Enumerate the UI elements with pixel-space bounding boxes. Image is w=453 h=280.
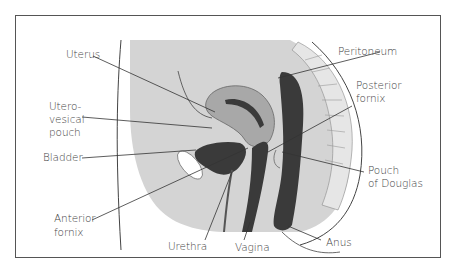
label-bladder: Bladder	[43, 151, 83, 164]
label-anterior-fornix-2: fornix	[54, 226, 83, 239]
label-uterovesical-pouch-1: Utero-	[49, 100, 81, 113]
label-uterus: Uterus	[66, 48, 100, 61]
abdomen-outline	[117, 40, 121, 250]
label-vagina: Vagina	[235, 241, 270, 254]
label-pouch-of-douglas-2: of Douglas	[368, 177, 423, 190]
label-urethra: Urethra	[168, 240, 207, 253]
label-peritoneum: Peritoneum	[338, 45, 397, 58]
label-anterior-fornix-1: Anterior	[54, 212, 96, 225]
label-posterior-fornix-2: fornix	[356, 92, 385, 105]
label-uterovesical-pouch-3: pouch	[49, 126, 81, 139]
label-posterior-fornix-1: Posterior	[356, 79, 402, 92]
label-pouch-of-douglas-1: Pouch	[368, 164, 399, 177]
label-anus: Anus	[326, 236, 352, 249]
label-uterovesical-pouch-2: vesical	[49, 113, 85, 126]
